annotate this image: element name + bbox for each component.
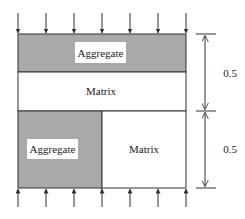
top-load-arrows xyxy=(18,13,186,33)
middle-matrix-label: Matrix xyxy=(86,85,116,97)
upper-dimension-label: 0.5 xyxy=(223,67,237,79)
composite-diagram: Aggregate Matrix Aggregate Matrix 0.5 0.… xyxy=(0,0,245,219)
bottom-matrix-label: Matrix xyxy=(129,143,159,155)
bottom-load-arrows xyxy=(18,189,186,207)
bottom-aggregate-label: Aggregate xyxy=(30,143,76,155)
lower-dimension-label: 0.5 xyxy=(223,143,237,155)
top-aggregate-label: Aggregate xyxy=(78,47,124,59)
